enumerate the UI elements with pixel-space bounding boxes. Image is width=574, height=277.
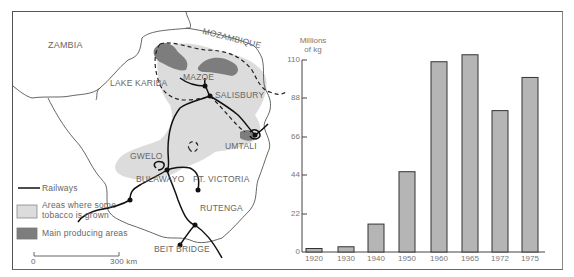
bar-1975 [522,77,538,252]
x-tick-1920: 1920 [299,254,329,263]
scale-end: 300 km [110,257,137,266]
label-lake-kariba: LAKE KARIBA [110,78,167,88]
y-tick-110: 110 [278,55,300,64]
label-zambia: ZAMBIA [48,40,83,50]
chart-bars [306,55,538,252]
bar-1920 [306,249,322,252]
legend-main: Main producing areas [42,228,128,238]
x-tick-1930: 1930 [331,254,361,263]
label-rutenga: RUTENGA [200,203,243,213]
bar-1960 [431,62,447,252]
y-tick-44: 44 [278,170,300,179]
chart-axes [302,60,545,252]
bar-1965 [462,55,478,252]
label-bulawayo: BULAWAYO [136,174,185,184]
legend-tobacco-1: Areas where some [42,200,116,210]
main-legend-swatch [17,228,37,239]
x-tick-1965: 1965 [455,254,485,263]
legend-tobacco-2: tobacco is grown [42,210,109,220]
label-umtali: UMTALI [225,141,257,151]
x-tick-1960: 1960 [424,254,454,263]
y-axis-title-1: Millions [288,36,338,45]
label-ft-victoria: FT. VICTORIA [193,174,250,184]
x-tick-1972: 1972 [485,254,515,263]
label-salisbury: SALISBURY [215,90,264,100]
bar-1972 [492,111,508,252]
y-tick-88: 88 [278,93,300,102]
scale-bar [34,252,119,256]
y-tick-66: 66 [278,132,300,141]
tobacco-legend-swatch [17,205,37,218]
bar-1950 [399,172,415,252]
label-mazoe: MAZOE [183,72,214,82]
label-gwelo: GWELO [130,151,163,161]
y-tick-0: 0 [278,247,300,256]
x-tick-1975: 1975 [515,254,545,263]
x-tick-1950: 1950 [392,254,422,263]
label-beit-bridge: BEIT BRIDGE [154,244,210,254]
scale-start: 0 [31,257,36,266]
bar-1930 [338,247,354,252]
x-tick-1940: 1940 [361,254,391,263]
legend-railways: Railways [42,183,78,193]
bar-1940 [368,224,384,252]
y-axis-title-2: of kg [288,45,338,54]
y-tick-22: 22 [278,209,300,218]
